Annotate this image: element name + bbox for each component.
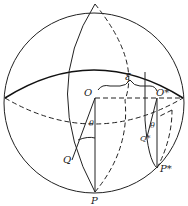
label-xi: ξ — [125, 71, 131, 82]
meridian-back-lower-dashed — [95, 100, 126, 192]
meridian-left — [68, 4, 96, 192]
label-Q-star: Q* — [140, 134, 151, 143]
right-back-dashed-2 — [160, 110, 172, 116]
label-theta-left: θ — [89, 119, 94, 128]
label-theta-right: θ — [150, 121, 155, 130]
label-O-star: O* — [156, 87, 169, 98]
line-OQ — [72, 98, 95, 160]
sphere-diagram: O O* ξ θ θ Q Q* P P* — [0, 0, 188, 206]
label-Q: Q — [63, 154, 71, 165]
label-O: O — [84, 87, 92, 98]
label-P: P — [90, 195, 98, 206]
label-P-star: P* — [159, 163, 172, 174]
line-O-star-Q-star — [147, 98, 157, 137]
